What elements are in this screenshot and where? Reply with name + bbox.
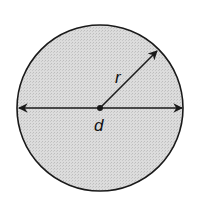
center-point <box>97 105 103 111</box>
diameter-label: d <box>94 116 104 135</box>
circle-diagram: r d <box>0 0 200 202</box>
